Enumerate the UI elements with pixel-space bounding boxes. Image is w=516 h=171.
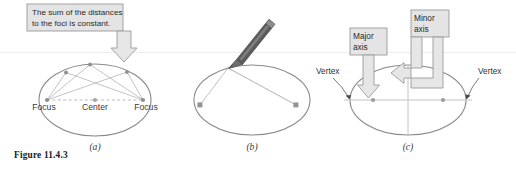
focal-chords-a (47, 65, 143, 101)
panel-label-c: (c) (403, 141, 414, 153)
label-right-vertex: Vertex (478, 66, 502, 76)
panel-a: Focus Center Focus The sum of the distan… (27, 4, 158, 153)
label-center: Center (82, 102, 108, 112)
callout-line-2: to the foci is constant. (32, 19, 110, 28)
panel-label-b: (b) (246, 141, 257, 153)
label-left-focus: Focus (32, 102, 55, 112)
figure-svg: Focus Center Focus The sum of the distan… (0, 0, 516, 171)
left-vertex-leader-arrow (333, 78, 349, 97)
panel-label-a: (a) (89, 141, 100, 153)
callout-major-line-1: Major (353, 31, 374, 41)
tack-right-b (293, 102, 298, 107)
panel-b: (b) (194, 19, 310, 153)
label-right-focus: Focus (134, 102, 157, 112)
minor-axis-arrow-left (391, 37, 443, 88)
callout-line-1: The sum of the distances (32, 8, 122, 17)
figure-caption: Figure 11.4.3 (14, 150, 68, 160)
ellipse-b (194, 65, 310, 135)
ellipse-point-a-1 (64, 71, 68, 75)
left-focus-dot-c (371, 98, 375, 102)
callout-arrow-down-a (111, 31, 137, 62)
ellipse-point-a-2 (88, 63, 92, 67)
callout-minor-line-1: Minor (414, 13, 435, 23)
right-focus-dot-c (441, 98, 445, 102)
ellipse-point-a-3 (125, 70, 129, 74)
callout-major-line-2: axis (353, 42, 368, 52)
callout-minor-line-2: axis (414, 24, 429, 34)
major-axis-arrow-down (358, 55, 380, 98)
string-right-b (228, 68, 296, 105)
label-left-vertex: Vertex (316, 66, 340, 76)
tack-left-b (197, 102, 202, 107)
pencil-icon (229, 19, 276, 68)
figure-container: Focus Center Focus The sum of the distan… (0, 0, 516, 171)
right-vertex-leader-arrow (468, 78, 480, 97)
panel-c: Major axis Minor axis Vertex Vertex (c) (316, 10, 502, 153)
